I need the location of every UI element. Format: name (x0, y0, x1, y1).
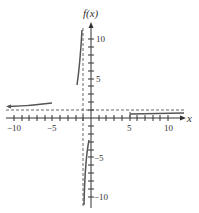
left-branch-arrow-icon (6, 105, 11, 109)
right-branch-curve (130, 113, 184, 114)
x-tick-label-neg10: −10 (7, 123, 22, 133)
y-axis-label: f(x) (83, 7, 99, 20)
x-tick-label-neg5: −5 (47, 123, 57, 133)
y-tick-label-neg5: −5 (94, 153, 104, 163)
upper-branch-curve (77, 30, 82, 85)
x-axis-arrow-icon (180, 116, 186, 121)
y-axis-arrow-icon (89, 22, 94, 28)
function-graph: f(x) x −10 −5 5 10 10 5 −5 −10 (0, 0, 199, 213)
y-tick-label-5: 5 (96, 74, 101, 84)
y-tick-label-neg10: −10 (94, 192, 109, 202)
x-tick-label-10: 10 (164, 123, 174, 133)
left-branch-curve (8, 103, 52, 107)
y-tick-label-10: 10 (96, 34, 106, 44)
x-axis-label: x (186, 112, 192, 124)
x-tick-label-5: 5 (127, 123, 132, 133)
